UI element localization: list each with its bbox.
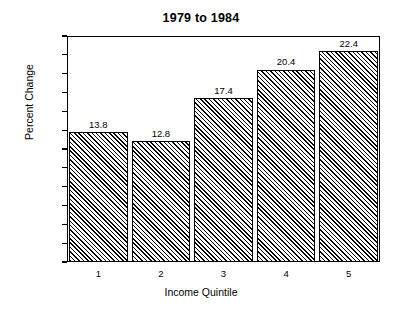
bar-value-label: 22.4 (319, 38, 378, 49)
bar-3 (194, 98, 253, 262)
bar-value-label: 13.8 (69, 119, 128, 130)
bar-4 (257, 70, 316, 262)
x-tick-label-3: 3 (192, 268, 255, 279)
bar-group-4: 20.4 (257, 36, 316, 262)
bar-2 (132, 141, 191, 262)
bar-5 (319, 51, 378, 262)
bar-group-1: 13.8 (69, 36, 128, 262)
x-axis-title: Income Quintile (0, 286, 402, 298)
x-tick-label-5: 5 (317, 268, 380, 279)
bar-group-5: 22.4 (319, 36, 378, 262)
bar-chart: 1979 to 1984 Percent Change 24%22%20%18%… (0, 0, 402, 310)
bar-value-label: 20.4 (257, 56, 316, 67)
x-tick-label-2: 2 (130, 268, 193, 279)
bars-layer: 13.812.817.420.422.4 (67, 36, 380, 262)
x-tick-label-1: 1 (67, 268, 130, 279)
bar-value-label: 17.4 (194, 85, 253, 96)
x-axis-ticks: 12345 (67, 262, 380, 282)
x-tick-label-4: 4 (255, 268, 318, 279)
bar-1 (69, 132, 128, 262)
bar-group-2: 12.8 (132, 36, 191, 262)
bar-group-3: 17.4 (194, 36, 253, 262)
bar-value-label: 12.8 (132, 128, 191, 139)
